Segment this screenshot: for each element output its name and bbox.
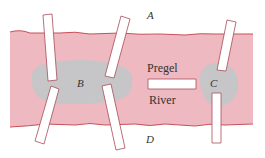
label-c: C [210, 77, 218, 89]
bridge-c-d [212, 93, 221, 143]
konigsberg-bridges-diagram: A B C D Pregel River [0, 0, 265, 158]
label-b: B [77, 77, 84, 89]
label-d: D [145, 133, 154, 145]
label-a: A [146, 9, 154, 21]
label-river: River [149, 93, 176, 107]
bridge-b-c [148, 79, 196, 89]
label-pregel: Pregel [147, 61, 178, 75]
